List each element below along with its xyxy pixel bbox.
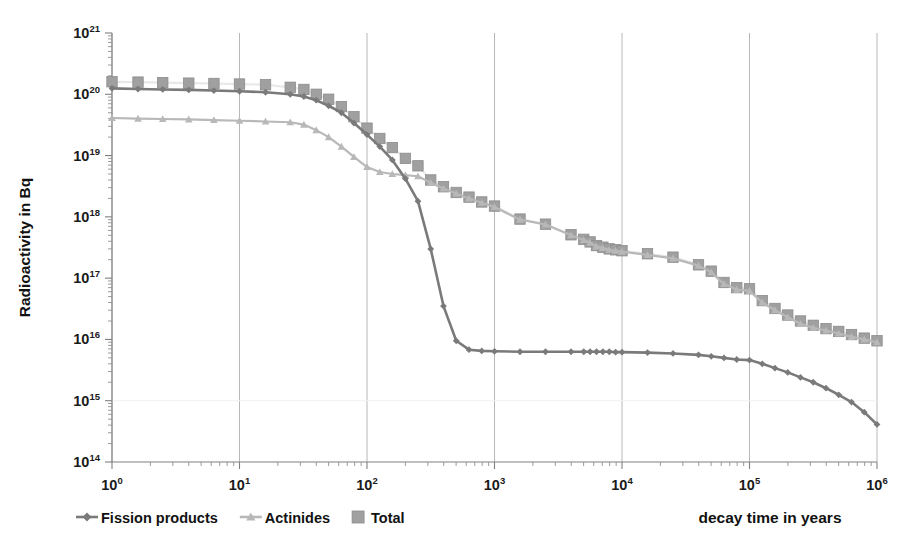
data-marker-square	[387, 142, 397, 152]
legend-square-icon	[352, 511, 364, 523]
legend-item-total[interactable]: Total	[352, 510, 405, 526]
data-marker-square	[234, 79, 244, 89]
data-marker-square	[413, 161, 423, 171]
legend-label: Actinides	[265, 510, 330, 526]
radioactivity-decay-chart: 1014101510161017101810191020102110010110…	[0, 0, 910, 557]
y-axis-title: Radioactivity in Bq	[16, 178, 33, 318]
legend-label: Fission products	[101, 510, 218, 526]
data-marker-square	[299, 84, 309, 94]
data-marker-square	[400, 153, 410, 163]
x-axis-title: decay time in years	[698, 509, 841, 526]
data-marker-square	[260, 80, 270, 90]
chart-canvas: 1014101510161017101810191020102110010110…	[0, 0, 910, 557]
data-marker-square	[209, 78, 219, 88]
legend-label: Total	[371, 510, 405, 526]
